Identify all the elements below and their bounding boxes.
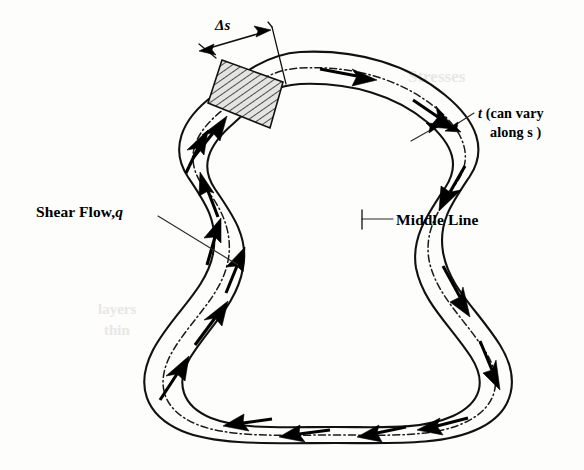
flow-arrow-left-3 xyxy=(226,247,245,293)
shear-flow-label: Shear Flow,q xyxy=(36,203,123,221)
delta-s-extension-right-lower xyxy=(268,22,272,27)
scan-artifact-group: Stresses layers thin xyxy=(98,67,466,338)
thickness-label-line1: (can vary xyxy=(482,105,544,121)
inner-wall-outline xyxy=(182,84,479,428)
ghost-text-left-low: thin xyxy=(104,322,131,338)
middle-line-leader-group xyxy=(362,210,393,229)
shear-flow-arrow-group xyxy=(160,69,500,442)
ghost-text-left-mid: layers xyxy=(98,301,136,317)
delta-s-label: Δs xyxy=(215,17,230,35)
hatched-wall-element xyxy=(208,60,283,128)
delta-s-arrowhead-right xyxy=(254,26,271,37)
flow-arrow-bottom-4 xyxy=(223,414,272,431)
thickness-label-line2: along s ) xyxy=(478,123,544,142)
middle-line-label: Middle Line xyxy=(396,211,478,229)
outer-wall-outline xyxy=(144,52,512,444)
flow-arrow-right-3 xyxy=(480,341,500,390)
flow-arrow-top-1 xyxy=(320,69,377,86)
diagram-canvas: Stresses layers thin xyxy=(0,0,584,470)
flow-arrow-right-2 xyxy=(443,266,470,317)
shear-flow-label-text: Shear Flow, xyxy=(36,203,115,220)
thickness-label: t (can vary along s ) xyxy=(478,104,544,141)
flow-arrow-left-2 xyxy=(195,301,228,345)
figure-root: Stresses layers thin xyxy=(0,0,584,470)
shear-flow-symbol: q xyxy=(115,203,123,220)
delta-s-element-group xyxy=(208,60,283,128)
